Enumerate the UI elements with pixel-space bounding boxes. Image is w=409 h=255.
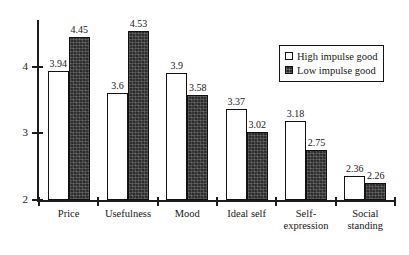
chart-legend: High impulse good Low impulse good: [279, 45, 384, 82]
bar-chart: 234 3.944.453.64.533.93.583.373.023.182.…: [0, 0, 409, 255]
bar-low-1: [128, 31, 149, 200]
legend-label-low-impulse-good: Low impulse good: [297, 65, 376, 76]
bar-value-label-low-3: 3.02: [242, 120, 272, 130]
category-label-5: Socialstanding: [330, 208, 400, 231]
bar-value-label-low-4: 2.75: [302, 138, 332, 148]
bar-low-0: [69, 37, 90, 200]
bar-value-label-high-2: 3.9: [162, 61, 192, 71]
category-label-line: standing: [330, 220, 400, 232]
category-label-line: Ideal self: [227, 208, 266, 219]
legend-swatch-low-impulse-good: [285, 66, 293, 74]
bar-low-2: [187, 95, 208, 200]
bar-value-label-low-0: 4.45: [64, 25, 94, 35]
bar-value-label-low-2: 3.58: [183, 83, 213, 93]
legend-item-high-impulse-good: High impulse good: [285, 49, 378, 63]
legend-item-low-impulse-good: Low impulse good: [285, 63, 378, 77]
bar-value-label-high-3: 3.37: [221, 97, 251, 107]
bar-high-0: [48, 71, 69, 200]
legend-swatch-high-impulse-good: [285, 52, 293, 60]
category-label-line: Social: [352, 208, 378, 219]
category-label-line: Usefulness: [105, 208, 151, 219]
bar-high-1: [107, 93, 128, 200]
bar-value-label-high-4: 3.18: [281, 109, 311, 119]
category-label-line: Price: [58, 208, 80, 219]
bar-low-5: [365, 183, 386, 200]
legend-label-high-impulse-good: High impulse good: [297, 51, 378, 62]
category-label-line: Mood: [175, 208, 200, 219]
bar-low-4: [306, 150, 327, 200]
bar-low-3: [247, 132, 268, 200]
bar-value-label-low-1: 4.53: [124, 19, 154, 29]
category-label-line: Self-: [296, 208, 316, 219]
bar-high-4: [285, 121, 306, 200]
bar-value-label-low-5: 2.26: [361, 171, 391, 181]
